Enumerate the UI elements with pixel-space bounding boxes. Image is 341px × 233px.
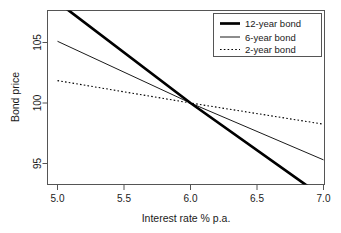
y-axis-title: Bond price	[9, 72, 21, 122]
x-tick-label-3: 6.0	[184, 193, 198, 204]
y-axis-ticks	[43, 43, 48, 164]
x-tick-label-2: 5.5	[117, 193, 131, 204]
legend-label-2-year-bond: 2-year bond	[245, 44, 296, 55]
y-tick-label-95: 95	[32, 158, 43, 170]
chart-canvas: 5.0 5.5 6.0 6.5 7.0 105 100 95 Interest …	[0, 0, 341, 233]
series-line-6-year-bond	[58, 41, 324, 160]
bond-price-chart-figure: 5.0 5.5 6.0 6.5 7.0 105 100 95 Interest …	[0, 0, 341, 233]
chart-legend: 12-year bond 6-year bond 2-year bond	[214, 14, 322, 57]
x-tick-label-4: 6.5	[250, 193, 264, 204]
x-tick-label-5: 7.0	[317, 193, 331, 204]
x-axis-title: Interest rate % p.a.	[142, 212, 231, 224]
legend-label-6-year-bond: 6-year bond	[245, 32, 296, 43]
x-tick-label-1: 5.0	[51, 193, 65, 204]
y-tick-label-100: 100	[32, 94, 43, 111]
y-tick-label-105: 105	[32, 34, 43, 51]
legend-label-12-year-bond: 12-year bond	[245, 18, 301, 29]
x-axis-ticks	[58, 185, 324, 190]
